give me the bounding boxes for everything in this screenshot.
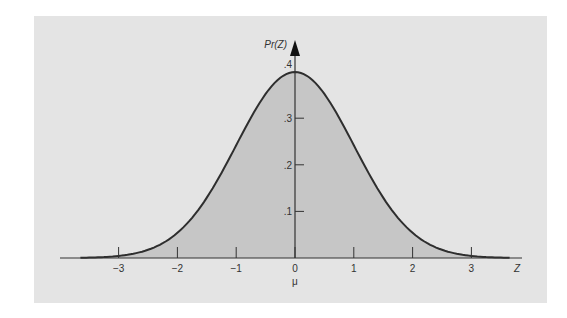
- x-tick-label: −1: [230, 263, 242, 274]
- x-tick-label: 0: [292, 263, 298, 274]
- x-tick-label: 1: [351, 263, 357, 274]
- y-axis-arrow-icon: [290, 40, 300, 56]
- mean-label: μ: [292, 276, 298, 287]
- y-tick-label: .3: [284, 113, 293, 124]
- x-tick-label: 2: [410, 263, 416, 274]
- y-tick-label: .4: [284, 59, 293, 70]
- x-tick-label: 3: [469, 263, 475, 274]
- normal-distribution-chart: −3−2−10123 .1.2.3.4 Pr(Z) Z μ: [0, 0, 567, 318]
- x-tick-label: −3: [113, 263, 125, 274]
- x-axis-label: Z: [513, 263, 521, 274]
- x-tick-label: −2: [172, 263, 184, 274]
- y-axis-label: Pr(Z): [264, 39, 287, 50]
- y-tick-label: .1: [284, 206, 293, 217]
- y-tick-label: .2: [284, 160, 293, 171]
